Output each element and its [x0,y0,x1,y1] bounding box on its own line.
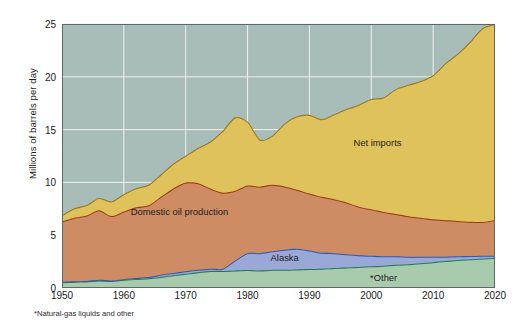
series-label-alaska: Alaska [271,252,299,263]
x-tick-label: 1970 [175,290,197,301]
x-tick-label: 2010 [422,290,444,301]
x-tick-label: 1980 [236,290,258,301]
x-tick-label: 1960 [113,290,135,301]
y-tick-label: 20 [45,71,56,82]
x-tick-label: 2000 [360,290,382,301]
y-axis-ticks: 0510152025 [34,0,56,329]
x-tick-label: 1950 [51,290,73,301]
footnote: *Natural-gas liquids and other [34,309,134,318]
y-tick-label: 25 [45,19,56,30]
x-tick-label: 2020 [484,290,506,301]
series-label-other: *Other [370,272,397,283]
y-tick-label: 10 [45,177,56,188]
y-tick-label: 5 [50,230,56,241]
series-label-imports: Net imports [354,137,402,148]
oil-supply-area-chart: Millions of barrels per day 0510152025 1… [0,0,519,329]
plot-area [0,0,519,329]
series-label-domestic: Domestic oil production [131,205,228,216]
x-tick-label: 1990 [298,290,320,301]
y-tick-label: 15 [45,124,56,135]
